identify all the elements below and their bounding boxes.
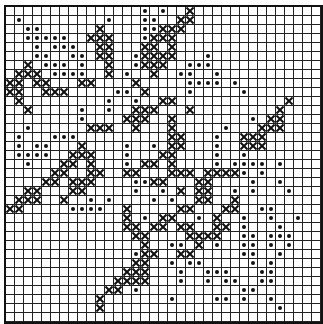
dot-stitch-cell <box>159 7 168 16</box>
empty-cell <box>276 34 285 43</box>
empty-cell <box>6 313 15 322</box>
empty-cell <box>294 241 303 250</box>
cross-stitch-cell <box>96 34 105 43</box>
cross-stitch-cell <box>240 133 249 142</box>
empty-cell <box>123 133 132 142</box>
empty-cell <box>294 169 303 178</box>
empty-cell <box>69 124 78 133</box>
dot-stitch-cell <box>276 232 285 241</box>
cross-stitch-cell <box>177 250 186 259</box>
dot-stitch-cell <box>240 295 249 304</box>
empty-cell <box>51 124 60 133</box>
empty-cell <box>312 25 321 34</box>
dot-stitch-cell <box>258 169 267 178</box>
dot-stitch-cell <box>123 142 132 151</box>
empty-cell <box>213 106 222 115</box>
cross-stitch-cell <box>186 106 195 115</box>
cross-stitch-cell <box>168 160 177 169</box>
empty-cell <box>105 7 114 16</box>
empty-cell <box>141 223 150 232</box>
dot-stitch-cell <box>240 286 249 295</box>
empty-cell <box>96 115 105 124</box>
dot-stitch-cell <box>24 124 33 133</box>
empty-cell <box>6 160 15 169</box>
empty-cell <box>132 304 141 313</box>
cross-stitch-cell <box>123 223 132 232</box>
dot-stitch-cell <box>222 277 231 286</box>
empty-cell <box>6 178 15 187</box>
dot-stitch-cell <box>123 70 132 79</box>
empty-cell <box>87 241 96 250</box>
dot-stitch-cell <box>60 70 69 79</box>
empty-cell <box>33 106 42 115</box>
empty-cell <box>231 70 240 79</box>
empty-cell <box>132 7 141 16</box>
empty-cell <box>195 277 204 286</box>
dot-stitch-cell <box>204 79 213 88</box>
empty-cell <box>195 88 204 97</box>
empty-cell <box>69 88 78 97</box>
dot-stitch-cell <box>141 7 150 16</box>
dot-stitch-cell <box>15 151 24 160</box>
dot-stitch-cell <box>105 106 114 115</box>
empty-cell <box>15 52 24 61</box>
empty-cell <box>69 34 78 43</box>
empty-cell <box>168 250 177 259</box>
cross-stitch-cell <box>177 25 186 34</box>
empty-cell <box>312 169 321 178</box>
dot-stitch-cell <box>195 61 204 70</box>
empty-cell <box>24 214 33 223</box>
empty-cell <box>294 79 303 88</box>
cross-stitch-cell <box>150 160 159 169</box>
dot-stitch-cell <box>249 259 258 268</box>
empty-cell <box>60 97 69 106</box>
empty-cell <box>186 142 195 151</box>
empty-cell <box>69 16 78 25</box>
empty-cell <box>249 223 258 232</box>
empty-cell <box>276 313 285 322</box>
empty-cell <box>285 259 294 268</box>
empty-cell <box>15 187 24 196</box>
dot-stitch-cell <box>33 25 42 34</box>
empty-cell <box>195 16 204 25</box>
empty-cell <box>78 160 87 169</box>
empty-cell <box>33 169 42 178</box>
empty-cell <box>177 79 186 88</box>
empty-cell <box>150 313 159 322</box>
empty-cell <box>87 61 96 70</box>
empty-cell <box>285 268 294 277</box>
empty-cell <box>231 178 240 187</box>
empty-cell <box>303 97 312 106</box>
empty-cell <box>51 223 60 232</box>
empty-cell <box>240 196 249 205</box>
empty-cell <box>195 133 204 142</box>
empty-cell <box>114 106 123 115</box>
cross-stitch-cell <box>78 178 87 187</box>
empty-cell <box>123 259 132 268</box>
empty-cell <box>105 304 114 313</box>
empty-cell <box>123 61 132 70</box>
empty-cell <box>312 250 321 259</box>
empty-cell <box>33 16 42 25</box>
empty-cell <box>132 43 141 52</box>
empty-cell <box>87 268 96 277</box>
empty-cell <box>51 151 60 160</box>
empty-cell <box>42 304 51 313</box>
empty-cell <box>87 142 96 151</box>
cross-stitch-cell <box>150 34 159 43</box>
empty-cell <box>51 52 60 61</box>
empty-cell <box>195 7 204 16</box>
empty-cell <box>186 286 195 295</box>
empty-cell <box>195 52 204 61</box>
empty-cell <box>204 124 213 133</box>
dot-stitch-cell <box>78 115 87 124</box>
empty-cell <box>303 25 312 34</box>
cross-stitch-cell <box>132 223 141 232</box>
empty-cell <box>33 97 42 106</box>
empty-cell <box>276 52 285 61</box>
cross-stitch-cell <box>195 232 204 241</box>
empty-cell <box>240 52 249 61</box>
dot-stitch-cell <box>141 25 150 34</box>
empty-cell <box>114 142 123 151</box>
empty-cell <box>276 25 285 34</box>
